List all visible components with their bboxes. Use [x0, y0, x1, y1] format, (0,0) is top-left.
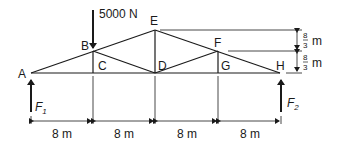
node-label-A: A: [18, 67, 26, 81]
span-label-3: 8 m: [177, 127, 197, 141]
span-label-1: 8 m: [52, 127, 72, 141]
height-label-2: 8 3 m: [303, 53, 322, 72]
extension-lines: [31, 76, 281, 124]
node-label-E: E: [150, 14, 158, 28]
load-label: 5000 N: [99, 7, 138, 21]
height-label-1: 8 3 m: [303, 31, 322, 50]
load-arrow: 5000 N: [93, 7, 138, 48]
node-label-B: B: [81, 39, 89, 53]
reaction-F2-label: F2: [287, 96, 299, 112]
svg-text:8: 8: [303, 53, 308, 62]
svg-text:8: 8: [303, 31, 308, 40]
truss-members: [31, 30, 280, 73]
reaction-F1: F1: [31, 80, 47, 116]
reaction-F1-label: F1: [35, 100, 47, 116]
node-label-G: G: [221, 59, 230, 73]
svg-text:3: 3: [303, 63, 308, 72]
span-label-2: 8 m: [114, 127, 134, 141]
node-label-H: H: [276, 59, 285, 73]
node-label-D: D: [158, 59, 167, 73]
svg-text:m: m: [312, 56, 322, 70]
span-label-4: 8 m: [240, 127, 260, 141]
svg-text:m: m: [312, 34, 322, 48]
truss-diagram: 5000 N A B C D E F G H F1 F2 8 m 8 m 8 m…: [0, 0, 339, 147]
reaction-F2: F2: [281, 80, 299, 112]
node-label-C: C: [98, 59, 107, 73]
svg-text:3: 3: [303, 41, 308, 50]
node-label-F: F: [214, 36, 221, 50]
